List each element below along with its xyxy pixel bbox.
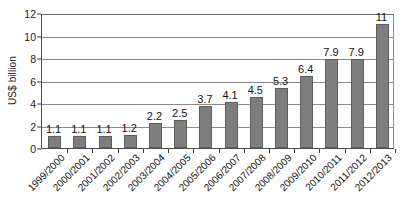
bar-chart: US$ billion 024681012 1.11.11.11.22.22.5…: [0, 0, 407, 208]
bar: [149, 123, 162, 148]
bar: [275, 88, 288, 148]
bar: [325, 59, 338, 148]
y-axis-tick-label: 4: [6, 98, 36, 110]
y-axis-tick-label: 6: [6, 76, 36, 88]
bar-value-label: 2.5: [163, 107, 197, 119]
bar-value-label: 7.9: [339, 46, 373, 58]
gridline: [42, 14, 393, 15]
bar: [48, 136, 61, 148]
bar: [351, 59, 364, 148]
bar: [376, 24, 389, 148]
bar: [199, 106, 212, 148]
bar: [73, 136, 86, 148]
bar: [124, 135, 137, 149]
y-axis-tick-label: 12: [6, 8, 36, 20]
bar: [250, 97, 263, 148]
y-axis-tick-label: 2: [6, 121, 36, 133]
bar-value-label: 11: [364, 11, 398, 23]
bar: [174, 120, 187, 148]
y-axis-tick-label: 10: [6, 31, 36, 43]
x-axis-category-labels: 1999/20002000/20012001/20022002/20032003…: [41, 152, 394, 208]
y-axis-tick-label: 8: [6, 53, 36, 65]
gridline: [42, 59, 393, 60]
bar: [300, 76, 313, 148]
bar-value-label: 6.4: [289, 63, 323, 75]
x-axis-tick-mark: [395, 149, 396, 153]
bar-value-label: 1.2: [112, 122, 146, 134]
bar: [225, 102, 238, 148]
gridline: [42, 82, 393, 83]
y-axis-tick-label: 0: [6, 143, 36, 155]
bar: [99, 136, 112, 148]
bar-value-label: 5.3: [264, 75, 298, 87]
gridline: [42, 37, 393, 38]
